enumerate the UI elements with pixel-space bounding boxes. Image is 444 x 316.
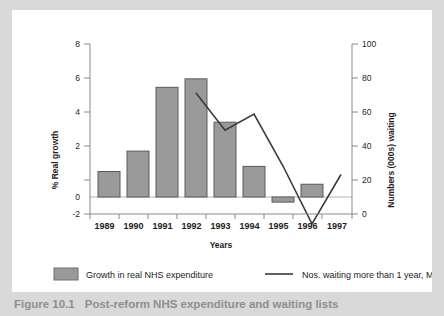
right-axis: 100 80 60 40 20 0 Numbers (000s) waiting (352, 39, 396, 219)
chart-legend: Growth in real NHS expenditure Nos. wait… (54, 268, 432, 280)
legend-label-bar: Growth in real NHS expenditure (86, 270, 213, 280)
chart-panel: 8 6 4 2 0 -2 % Real growth (12, 10, 432, 292)
bar-1995 (272, 197, 294, 202)
left-tick-label: 0 (75, 192, 80, 202)
legend-swatch-bar (54, 268, 78, 280)
right-tick-label: 60 (362, 107, 372, 117)
bar-1996 (301, 184, 323, 197)
x-tick-label-1995: 1995 (268, 221, 288, 231)
bar-1994 (243, 166, 265, 197)
left-tick-label: 6 (75, 73, 80, 83)
right-tick-label: 40 (362, 141, 372, 151)
x-tick-label-1997: 1997 (327, 221, 347, 231)
x-tick-label-1996: 1996 (297, 221, 317, 231)
legend-label-line: Nos. waiting more than 1 year, March (302, 270, 432, 280)
x-tick-label-1990: 1990 (123, 221, 143, 231)
x-tick-label-1991: 1991 (152, 221, 172, 231)
figure-caption: Figure 10.1Post-reform NHS expenditure a… (14, 298, 444, 316)
x-tick-label-1992: 1992 (181, 221, 201, 231)
bar-1992 (185, 79, 207, 197)
x-tick-label-1994: 1994 (239, 221, 259, 231)
right-axis-title: Numbers (000s) waiting (386, 112, 396, 207)
figure-caption-number: Figure 10.1 (14, 298, 75, 310)
right-tick-label: 100 (362, 39, 376, 49)
x-tick-label-1989: 1989 (94, 221, 114, 231)
bar-1989 (98, 172, 120, 198)
x-axis: 1989 1990 1991 1992 1993 1994 1995 1996 … (90, 214, 352, 250)
right-tick-label: 20 (362, 175, 372, 185)
left-tick-label: 4 (75, 107, 80, 117)
bar-1993 (214, 122, 236, 197)
left-axis-title: % Real growth (50, 131, 60, 190)
figure-caption-text: Post-reform NHS expenditure and waiting … (85, 298, 339, 310)
left-tick-label: -2 (72, 209, 80, 219)
right-tick-label: 0 (362, 209, 367, 219)
chart-area: 8 6 4 2 0 -2 % Real growth (12, 10, 432, 292)
bar-1991 (156, 87, 178, 197)
x-tick-label-1993: 1993 (210, 221, 230, 231)
bar-1990 (127, 151, 149, 197)
x-axis-title: Years (210, 240, 233, 250)
figure-container: 8 6 4 2 0 -2 % Real growth (0, 0, 444, 316)
bar-series (98, 79, 323, 202)
left-axis: 8 6 4 2 0 -2 % Real growth (50, 39, 90, 219)
left-tick-label: 8 (75, 39, 80, 49)
chart-svg: 8 6 4 2 0 -2 % Real growth (12, 10, 432, 292)
left-tick-label: 2 (75, 141, 80, 151)
right-tick-label: 80 (362, 73, 372, 83)
